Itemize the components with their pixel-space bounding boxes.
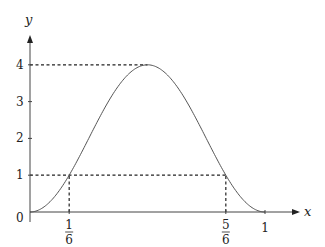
x-axis-label: x [304, 204, 312, 219]
y-axis-arrow-icon [27, 35, 33, 43]
y-tick-label: 1 [16, 168, 24, 182]
origin-label: 0 [16, 211, 24, 225]
y-tick-label: 3 [16, 95, 24, 109]
x-tick-denominator: 6 [222, 233, 230, 247]
x-tick-numerator: 1 [65, 218, 73, 232]
x-ticks: 16561 [65, 210, 269, 247]
y-tick-label: 2 [16, 131, 24, 145]
chart: x y 0 1234 16561 [0, 0, 325, 247]
y-tick-label: 4 [16, 58, 24, 72]
x-tick-denominator: 6 [65, 233, 73, 247]
plot-area [30, 65, 265, 212]
function-curve [30, 65, 265, 212]
y-axis-label: y [24, 12, 33, 27]
x-tick-numerator: 5 [222, 218, 230, 232]
x-tick-label: 1 [261, 221, 269, 235]
axes: x y 0 [16, 12, 312, 225]
x-axis-arrow-icon [292, 209, 300, 215]
